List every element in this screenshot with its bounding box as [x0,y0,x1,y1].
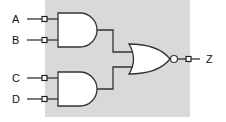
output-label-z: Z [206,53,213,65]
and-gate-1 [58,13,97,47]
input-label-a: A [12,13,20,25]
port-b [42,38,47,43]
and-gate-2 [58,72,97,106]
port-z [186,57,191,62]
nor-inversion-bubble [171,56,178,63]
port-d [42,97,47,102]
input-label-c: C [12,72,20,84]
input-label-d: D [12,93,20,105]
logic-circuit-diagram: A B C D Z [0,0,226,122]
port-c [42,76,47,81]
port-a [42,17,47,22]
input-label-b: B [12,34,19,46]
